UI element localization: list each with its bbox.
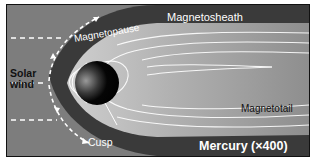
arrow-head-mid-bottom <box>54 107 60 113</box>
label-cusp: Cusp <box>88 137 113 148</box>
arrow-head-mid-top <box>50 53 56 59</box>
diagram-graphic <box>7 5 309 156</box>
label-magnetosheath: Magnetosheath <box>167 12 243 23</box>
diagram-title: Mercury (×400) <box>199 140 288 153</box>
magnetosphere-diagram: Magnetosheath Magnetopause Solar wind Ma… <box>6 4 310 157</box>
label-magnetotail: Magnetotail <box>241 104 293 114</box>
label-solar-wind-line2: wind <box>10 79 36 90</box>
label-solar-wind: Solar wind <box>10 68 36 90</box>
planet-mercury <box>75 61 119 105</box>
